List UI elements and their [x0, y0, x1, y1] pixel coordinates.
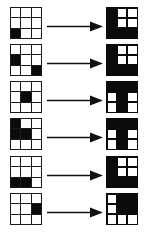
cell-r3-c1: [108, 178, 117, 187]
cell-r2-c2: [118, 130, 127, 139]
cell-r3-c1: [11, 66, 20, 75]
transformation-row-2: [0, 42, 149, 79]
cell-r1-c3: [32, 8, 41, 17]
cell-r1-c2: [21, 45, 30, 54]
cell-r3-c2: [118, 215, 127, 224]
cell-r1-c1: [108, 9, 117, 18]
cell-r3-c3: [128, 215, 137, 224]
cell-r1-c3: [128, 83, 137, 92]
cell-r1-c1: [108, 83, 117, 92]
cell-r1-c2: [21, 194, 30, 203]
cell-r1-c1: [11, 194, 20, 203]
output-grid-3: [106, 81, 138, 113]
cell-r2-c2: [118, 56, 127, 65]
cell-r1-c2: [118, 83, 127, 92]
cell-r3-c3: [32, 103, 41, 112]
cell-r2-c1: [11, 167, 20, 176]
cell-r1-c2: [118, 46, 127, 55]
arrow-icon-2: [47, 58, 103, 69]
cell-r1-c3: [32, 157, 41, 166]
cell-r3-c1: [11, 178, 20, 187]
cell-r2-c2: [118, 19, 127, 28]
cell-r2-c3: [128, 56, 137, 65]
cell-r1-c2: [118, 9, 127, 18]
cell-r3-c3: [32, 178, 41, 187]
cell-r1-c3: [32, 119, 41, 128]
cell-r3-c2: [21, 103, 30, 112]
cell-r3-c3: [128, 103, 137, 112]
input-grid-3: [10, 81, 42, 113]
cell-r1-c3: [32, 194, 41, 203]
cell-r1-c1: [108, 120, 117, 129]
transformation-row-4: [0, 116, 149, 153]
cell-r3-c1: [108, 103, 117, 112]
cell-r3-c2: [118, 178, 127, 187]
cell-r2-c1: [11, 204, 20, 213]
cell-r1-c1: [108, 46, 117, 55]
output-grid-6: [106, 193, 138, 225]
cell-r2-c1: [11, 92, 20, 101]
cell-r3-c2: [21, 178, 30, 187]
cell-r2-c2: [21, 204, 30, 213]
transformation-figure: [0, 0, 149, 234]
cell-r3-c1: [11, 215, 20, 224]
cell-r2-c3: [32, 129, 41, 138]
cell-r2-c2: [118, 205, 127, 214]
cell-r1-c3: [128, 195, 137, 204]
cell-r3-c3: [128, 29, 137, 38]
cell-r2-c2: [21, 129, 30, 138]
input-grid-5: [10, 156, 42, 188]
cell-r1-c2: [21, 8, 30, 17]
cell-r1-c2: [21, 119, 30, 128]
cell-r1-c1: [11, 8, 20, 17]
cell-r2-c1: [11, 18, 20, 27]
cell-r3-c3: [128, 178, 137, 187]
cell-r2-c2: [21, 167, 30, 176]
output-grid-4: [106, 118, 138, 150]
input-grid-4: [10, 118, 42, 150]
cell-r2-c3: [128, 19, 137, 28]
cell-r2-c1: [108, 19, 117, 28]
cell-r2-c1: [108, 205, 117, 214]
cell-r1-c3: [32, 45, 41, 54]
cell-r2-c3: [128, 130, 137, 139]
cell-r2-c2: [21, 92, 30, 101]
output-grid-5: [106, 156, 138, 188]
cell-r3-c3: [32, 215, 41, 224]
cell-r2-c2: [118, 93, 127, 102]
cell-r2-c3: [32, 55, 41, 64]
cell-r1-c3: [128, 120, 137, 129]
cell-r1-c2: [118, 120, 127, 129]
cell-r2-c1: [108, 56, 117, 65]
cell-r3-c1: [108, 215, 117, 224]
arrow-icon-5: [47, 170, 103, 181]
cell-r2-c2: [118, 168, 127, 177]
cell-r1-c1: [11, 82, 20, 91]
transformation-row-6: [0, 191, 149, 228]
cell-r1-c3: [128, 9, 137, 18]
cell-r1-c1: [11, 119, 20, 128]
cell-r1-c3: [128, 158, 137, 167]
cell-r3-c2: [21, 140, 30, 149]
cell-r1-c2: [118, 158, 127, 167]
cell-r3-c3: [32, 66, 41, 75]
cell-r2-c1: [11, 55, 20, 64]
cell-r1-c1: [11, 157, 20, 166]
cell-r3-c3: [128, 140, 137, 149]
input-grid-1: [10, 7, 42, 39]
arrow-icon-6: [47, 207, 103, 218]
cell-r3-c3: [32, 140, 41, 149]
cell-r2-c1: [108, 168, 117, 177]
cell-r2-c3: [32, 204, 41, 213]
cell-r1-c3: [32, 82, 41, 91]
cell-r2-c3: [32, 18, 41, 27]
cell-r3-c1: [108, 66, 117, 75]
input-grid-6: [10, 193, 42, 225]
cell-r3-c2: [21, 29, 30, 38]
cell-r3-c1: [108, 29, 117, 38]
cell-r2-c1: [108, 93, 117, 102]
arrow-icon-3: [47, 95, 103, 106]
cell-r3-c1: [11, 140, 20, 149]
arrow-icon-4: [47, 132, 103, 143]
cell-r2-c2: [21, 18, 30, 27]
